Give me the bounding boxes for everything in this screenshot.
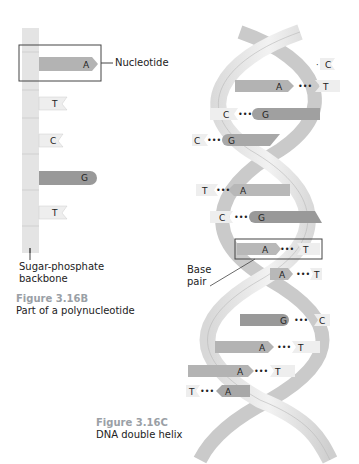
svg-text:•••: •••	[277, 343, 291, 352]
base-label: G	[81, 173, 88, 183]
svg-text:C: C	[194, 136, 200, 146]
base-pair: A ••• T	[188, 365, 295, 377]
svg-text:C: C	[223, 110, 229, 120]
svg-text:•••: •••	[216, 186, 230, 195]
svg-text:•••: •••	[207, 136, 221, 145]
svg-text:•••: •••	[294, 316, 308, 325]
polynucleotide-svg: A T C G T	[0, 0, 180, 300]
svg-text:T: T	[322, 82, 329, 92]
base-label: A	[83, 60, 90, 70]
svg-text:·: ·	[316, 61, 319, 70]
base-label: C	[50, 136, 56, 146]
svg-text:A: A	[237, 367, 244, 377]
base-label: T	[51, 99, 58, 109]
figure-b-number: Figure 3.16B	[16, 293, 88, 305]
base-pair: A ••• T	[215, 341, 320, 353]
base-pair-callout-line1: Base	[187, 264, 211, 276]
base-pair: T ••• A	[186, 385, 250, 397]
svg-text:A: A	[225, 387, 232, 397]
figure-c-number: Figure 3.16C	[96, 417, 168, 429]
backbone-callout-line1: Sugar-phosphate	[19, 261, 104, 273]
svg-text:•••: •••	[296, 270, 310, 279]
svg-text:G: G	[280, 316, 287, 326]
base-pair: C ••• G	[210, 108, 320, 120]
base-pair: · C	[316, 58, 335, 70]
svg-text:A: A	[259, 343, 266, 353]
svg-text:A: A	[279, 270, 286, 280]
svg-text:A: A	[240, 186, 247, 196]
svg-text:T: T	[302, 245, 309, 255]
svg-text:T: T	[297, 343, 304, 353]
sugar-phosphate-backbone	[22, 28, 39, 253]
base-pair: C ••• G	[210, 211, 322, 223]
figure-c-caption: DNA double helix	[96, 429, 182, 441]
nucleotide-callout: Nucleotide	[115, 57, 169, 69]
svg-text:C: C	[325, 60, 331, 70]
svg-text:A: A	[262, 245, 269, 255]
base-pair-callout-line2: pair	[187, 276, 206, 288]
svg-text:•••: •••	[200, 387, 214, 396]
svg-text:T: T	[188, 387, 195, 397]
double-helix-svg: · C A ••• T C ••• G C ••• G T ••	[180, 0, 359, 464]
base-pair: C ••• G	[192, 134, 280, 146]
svg-text:•••: •••	[280, 245, 294, 254]
svg-text:G: G	[258, 213, 265, 223]
svg-text:T: T	[313, 270, 320, 280]
svg-text:G: G	[262, 110, 269, 120]
base-label: T	[51, 208, 58, 218]
svg-text:•••: •••	[238, 110, 252, 119]
svg-text:T: T	[274, 367, 281, 377]
double-helix-diagram: · C A ••• T C ••• G C ••• G T ••	[180, 0, 359, 464]
svg-text:•••: •••	[234, 213, 248, 222]
base-g	[39, 171, 97, 185]
svg-text:C: C	[319, 316, 325, 326]
backbone-callout-line2: backbone	[19, 273, 68, 285]
polynucleotide-diagram: A T C G T	[0, 0, 180, 300]
svg-text:•••: •••	[254, 367, 268, 376]
svg-text:T: T	[201, 186, 208, 196]
base-pair: A ••• T	[270, 268, 322, 280]
svg-text:A: A	[276, 82, 283, 92]
svg-text:C: C	[219, 213, 225, 223]
figure-b-caption: Part of a polynucleotide	[16, 305, 135, 317]
svg-text:•••: •••	[298, 82, 312, 91]
base-pair: T ••• A	[196, 184, 290, 196]
base-pair: A ••• T	[235, 80, 340, 92]
svg-text:G: G	[228, 136, 235, 146]
